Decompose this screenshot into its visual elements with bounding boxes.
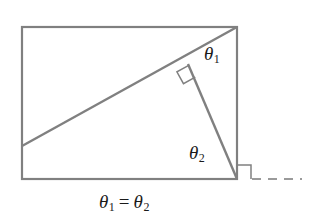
caption-left-subscript: 1 [109,200,115,214]
theta1-subscript: 1 [214,52,220,66]
right-angle-mark-corner [237,165,251,179]
theta2-label: θ2 [189,143,205,164]
caption-left-symbol: θ [99,191,108,212]
figure-canvas [0,0,310,221]
caption-right-subscript: 2 [143,200,149,214]
theta2-subscript: 2 [199,151,205,165]
caption-operator: = [119,191,130,212]
theta1-symbol: θ [204,43,213,64]
geometry-figure: θ1 θ2 θ1=θ2 [0,0,310,221]
caption-right-symbol: θ [134,191,143,212]
theta2-symbol: θ [189,142,198,163]
theta1-label: θ1 [204,44,220,65]
equation-caption: θ1=θ2 [99,192,149,213]
